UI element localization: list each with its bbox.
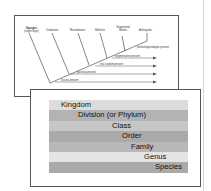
taxonomy-level-division: Division (or Phylum) xyxy=(49,110,188,120)
trait-label: jointed appendages present xyxy=(137,46,169,49)
page-edge-divider xyxy=(203,0,204,191)
taxon-label: Arthropods xyxy=(139,29,152,32)
cladogram-card: Sponges (single layer) Cnidarians Roundw… xyxy=(14,15,179,97)
taxonomy-level-family: Family xyxy=(49,142,188,152)
taxon-label: Segmented Worms xyxy=(114,26,132,32)
trait-label: true coelom present xyxy=(100,63,123,66)
trait-label: segmentation present xyxy=(115,55,140,58)
trait-label: tissues present xyxy=(61,79,78,82)
taxon-note: (single layer) xyxy=(24,30,39,33)
trait-label: gastrula present xyxy=(77,71,96,74)
taxonomy-level-class: Class xyxy=(49,121,188,131)
taxonomy-level-kingdom: Kingdom xyxy=(49,100,188,110)
taxon-label: Mollusks xyxy=(95,29,105,32)
cladogram-diagram xyxy=(15,16,178,96)
taxonomy-card: Kingdom Division (or Phylum) Class Order… xyxy=(30,89,201,187)
taxonomy-levels: Kingdom Division (or Phylum) Class Order… xyxy=(49,100,188,173)
taxonomy-level-genus: Genus xyxy=(49,152,188,162)
taxonomy-level-species: Species xyxy=(49,162,188,172)
taxon-label: Cnidarians xyxy=(46,29,58,32)
taxonomy-level-order: Order xyxy=(49,131,188,141)
taxon-label: Roundworms xyxy=(70,29,85,32)
